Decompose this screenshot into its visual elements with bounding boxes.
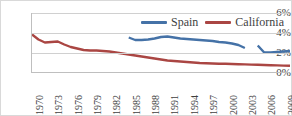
series-line-spain [258, 46, 290, 53]
x-tick-label: 1997 [209, 95, 219, 115]
legend-item-spain[interactable]: Spain [141, 16, 198, 28]
x-tick-label: 2009 [287, 95, 292, 115]
x-tick-label: 1973 [54, 95, 64, 115]
gridline [32, 33, 289, 34]
series-line-spain [129, 37, 245, 49]
x-axis-labels: 1970197319761979198219851988199119941997… [31, 74, 289, 116]
gridline [32, 53, 289, 54]
chart-legend: SpainCalifornia [141, 15, 284, 29]
x-tick-label: 1976 [74, 95, 84, 115]
x-tick-label: 2003 [248, 95, 258, 115]
gridline [32, 13, 289, 14]
x-tick-label: 1988 [151, 95, 161, 115]
legend-label: Spain [171, 16, 198, 28]
line-chart: 6%4%2%0% 1970197319761979198219851988199… [0, 0, 292, 116]
x-tick-label: 1991 [170, 95, 180, 115]
legend-swatch-icon [141, 21, 167, 24]
legend-label: California [235, 16, 284, 28]
x-tick-label: 2006 [267, 95, 277, 115]
legend-swatch-icon [205, 21, 231, 24]
x-tick-label: 1970 [35, 95, 45, 115]
legend-item-california[interactable]: California [205, 16, 284, 28]
x-tick-label: 1994 [190, 95, 200, 115]
x-tick-label: 2000 [229, 95, 239, 115]
series-line-california [32, 35, 290, 66]
x-tick-label: 1982 [112, 95, 122, 115]
x-tick-label: 1979 [93, 95, 103, 115]
x-tick-label: 1985 [132, 95, 142, 115]
